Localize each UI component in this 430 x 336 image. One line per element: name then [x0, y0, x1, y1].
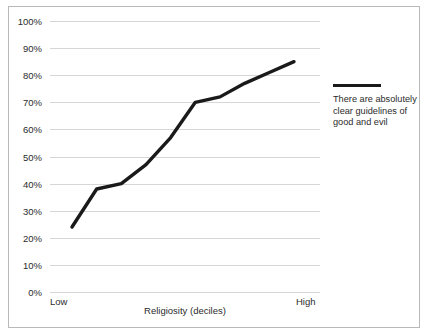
- chart-figure: 0%10%20%30%40%50%60%70%80%90%100% Low Hi…: [0, 0, 430, 336]
- legend-label: There are absolutely clear guidelines of…: [333, 94, 425, 129]
- gridline: [50, 292, 320, 293]
- legend: There are absolutely clear guidelines of…: [333, 84, 425, 129]
- plot-area: [50, 21, 320, 292]
- x-axis-title: Religiosity (deciles): [50, 305, 320, 316]
- line-series-guidelines-of-good-and-evil: [50, 21, 320, 292]
- legend-swatch-icon: [333, 84, 381, 87]
